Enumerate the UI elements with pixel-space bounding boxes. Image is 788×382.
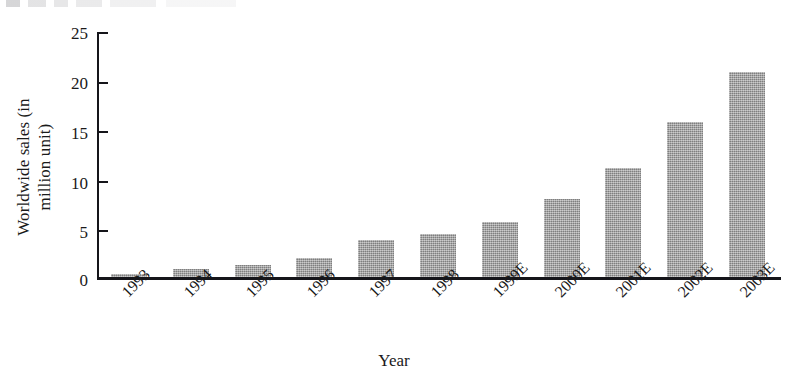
y-tick-label-25: 25 — [48, 25, 88, 42]
y-axis-tick-labels: 25 20 15 10 5 0 — [48, 0, 88, 382]
bar-2001E — [605, 168, 641, 277]
y-tick-label-0: 0 — [48, 272, 88, 289]
y-tick-label-5: 5 — [48, 224, 88, 241]
y-tick-label-15: 15 — [48, 125, 88, 142]
y-tick-label-10: 10 — [48, 175, 88, 192]
bar-series — [99, 0, 781, 382]
y-tick-label-20: 20 — [48, 75, 88, 92]
bar-2003E — [729, 72, 765, 277]
x-axis-title: Year — [0, 352, 788, 370]
bar-2002E — [667, 122, 703, 277]
bar-chart-figure: Worldwide sales (in million unit) 25 20 … — [0, 0, 788, 382]
